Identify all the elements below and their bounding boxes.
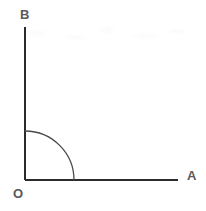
diagram-canvas (0, 0, 206, 211)
right-angle-diagram: B O A (0, 0, 206, 211)
right-angle-arc (25, 131, 74, 180)
vertex-label-b: B (20, 8, 29, 21)
vertex-label-o: O (13, 187, 23, 200)
vertex-label-a: A (187, 169, 196, 182)
